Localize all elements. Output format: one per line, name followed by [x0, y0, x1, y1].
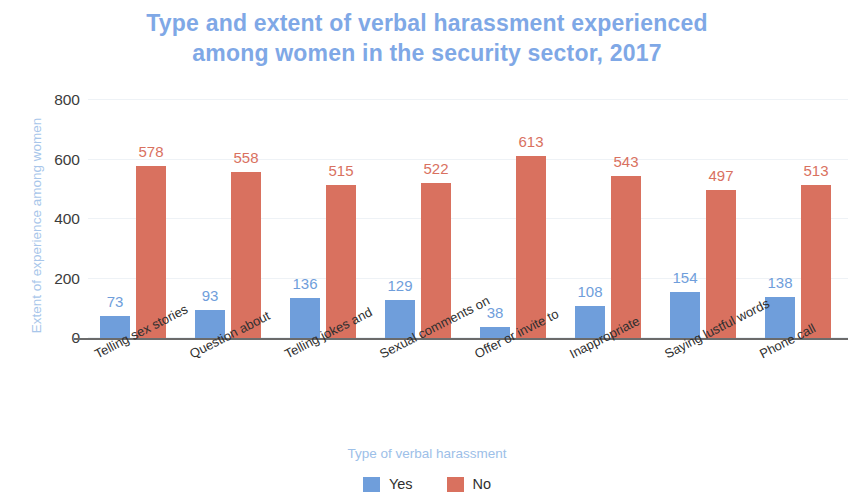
chart-legend: YesNo [0, 476, 854, 492]
bar-no[interactable] [611, 176, 641, 338]
legend-label: No [473, 476, 492, 492]
chart-title-line-1: Type and extent of verbal harassment exp… [60, 8, 794, 38]
y-axis-tick-label: 600 [34, 151, 80, 169]
bar-value-label-yes: 73 [87, 293, 143, 310]
bar-group: 154497 [664, 100, 759, 338]
bar-value-label-yes: 108 [562, 283, 618, 300]
legend-swatch-icon [447, 477, 464, 492]
bar-value-label-no: 522 [408, 160, 464, 177]
bar-group: 129522 [379, 100, 474, 338]
bar-no[interactable] [801, 185, 831, 338]
bar-group: 93558 [189, 100, 284, 338]
chart-title-line-2: among women in the security sector, 2017 [60, 38, 794, 68]
bar-value-label-yes: 154 [657, 269, 713, 286]
bar-no[interactable] [516, 156, 546, 338]
bar-value-label-no: 543 [598, 153, 654, 170]
bar-value-label-no: 513 [788, 162, 844, 179]
bar-value-label-yes: 129 [372, 277, 428, 294]
legend-item[interactable]: Yes [363, 476, 413, 492]
bar-value-label-no: 515 [313, 162, 369, 179]
chart-canvas: Type and extent of verbal harassment exp… [0, 0, 854, 504]
bar-group: 73578 [94, 100, 189, 338]
bar-value-label-yes: 138 [752, 274, 808, 291]
bar-value-label-yes: 136 [277, 275, 333, 292]
bar-value-label-no: 578 [123, 143, 179, 160]
legend-label: Yes [389, 476, 413, 492]
x-axis-title: Type of verbal harassment [0, 446, 854, 461]
bar-group: 136515 [284, 100, 379, 338]
y-axis-tick-labels: 0200400600800 [28, 100, 80, 338]
bar-value-label-no: 613 [503, 133, 559, 150]
x-axis-tick-labels: Telling sex storiesQuestion aboutTelling… [88, 344, 848, 440]
y-axis-tick-label: 800 [34, 91, 80, 109]
bar-value-label-yes: 93 [182, 287, 238, 304]
chart-title: Type and extent of verbal harassment exp… [60, 8, 794, 68]
bar-value-label-no: 558 [218, 149, 274, 166]
x-axis-line [74, 338, 848, 340]
y-axis-tick-label: 200 [34, 270, 80, 288]
legend-item[interactable]: No [447, 476, 492, 492]
y-axis-tick-label: 400 [34, 210, 80, 228]
bar-value-label-no: 497 [693, 167, 749, 184]
legend-swatch-icon [363, 477, 380, 492]
bar-group: 108543 [569, 100, 664, 338]
bar-group: 138513 [759, 100, 854, 338]
